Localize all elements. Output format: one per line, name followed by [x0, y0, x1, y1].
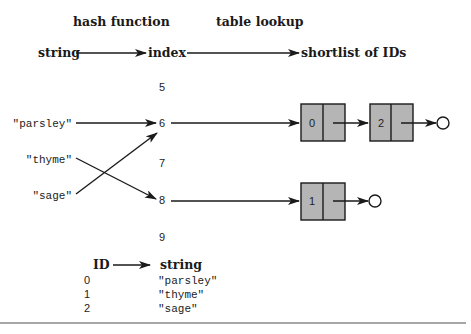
null-terminator-icon — [369, 195, 381, 207]
index-7: 7 — [159, 157, 165, 169]
node-id-1: 1 — [309, 195, 315, 207]
index-8: 8 — [159, 194, 165, 206]
id-table-string-1: "thyme" — [158, 289, 204, 301]
input-thyme: "thyme" — [26, 154, 72, 166]
header-table-lookup: table lookup — [216, 14, 304, 29]
node-id-2: 2 — [378, 117, 384, 129]
id-table-id-1: 1 — [84, 288, 90, 300]
id-table-string-0: "parsley" — [158, 275, 217, 287]
header-hash-function: hash function — [73, 14, 170, 29]
pipeline-string-label: string — [38, 45, 80, 60]
id-table-id-2: 2 — [84, 302, 90, 314]
id-table-id-0: 0 — [84, 274, 90, 286]
pipeline-shortlist-label: shortlist of IDs — [301, 45, 406, 60]
index-5: 5 — [159, 81, 165, 93]
input-parsley: "parsley" — [13, 118, 72, 130]
hash-table-diagram: hash function table lookup string index … — [0, 0, 471, 334]
index-9: 9 — [159, 231, 165, 243]
node-id-0: 0 — [309, 117, 315, 129]
id-table-header-string: string — [160, 257, 202, 272]
id-table-header-id: ID — [93, 257, 110, 272]
null-terminator-icon — [437, 117, 449, 129]
input-sage: "sage" — [32, 190, 72, 202]
pipeline-index-label: index — [148, 45, 187, 60]
index-6: 6 — [159, 117, 165, 129]
id-table-string-2: "sage" — [158, 303, 198, 315]
